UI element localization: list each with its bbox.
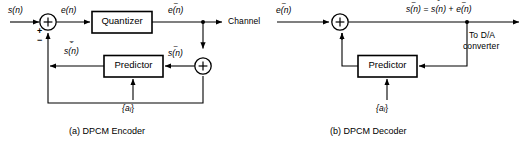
encoder-quantizer-label: Quantizer: [92, 15, 152, 26]
decoder-destination-line2: converter: [463, 41, 499, 51]
encoder-predictor-label: Predictor: [104, 59, 163, 70]
encoder-input-label: s(n): [8, 5, 23, 15]
encoder-minus-sign: −: [37, 36, 42, 45]
decoder-predictor-label: Predictor: [358, 59, 417, 70]
decoder-coefficients-label: {ai}: [376, 103, 388, 114]
decoder-caption: (b) DPCM Decoder: [330, 126, 407, 136]
encoder-reconstructed-label: ~s(n): [168, 48, 183, 58]
encoder-caption: (a) DPCM Encoder: [69, 126, 145, 136]
dpcm-figure: s(n) + − e(n) Quantizer ~e(n) Channel ~ …: [0, 0, 529, 145]
decoder-input-label: ~e(n): [276, 5, 292, 15]
decoder-feedback-wire: [419, 22, 467, 66]
encoder-coefficients-label: {ai}: [122, 103, 134, 114]
encoder-channel-label: Channel: [228, 16, 260, 26]
encoder-prediction-label: ~ ˆ s(n): [64, 46, 79, 56]
decoder-prediction-wire-path: [342, 33, 358, 66]
encoder-error-label: e(n): [61, 5, 77, 15]
diagram-canvas: [0, 0, 529, 145]
decoder-output-equation: ~s(n) = ~ˆs(n) + ~e(n): [406, 4, 472, 14]
encoder-quantized-error-label: ~e(n): [168, 5, 184, 15]
decoder-destination-line1: To D/A: [469, 30, 495, 40]
